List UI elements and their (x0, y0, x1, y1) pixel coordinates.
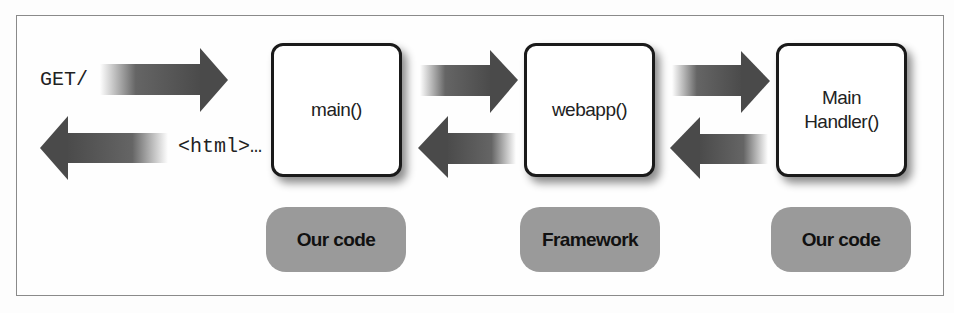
framework-tag: Framework (520, 207, 660, 272)
response-arrow-icon (40, 116, 168, 180)
webapp-to-handler-arrow-icon (672, 51, 770, 113)
webapp-to-main-arrow-icon (418, 116, 516, 178)
main-function-box: main() (271, 43, 402, 177)
our-code-tag-handler: Our code (771, 207, 911, 272)
main-to-webapp-arrow-icon (420, 50, 518, 113)
request-label: GET/ (40, 68, 88, 91)
box-label: main() (311, 98, 362, 122)
request-arrow-icon (100, 48, 228, 112)
box-label: webapp() (552, 98, 627, 122)
response-label: <html>… (178, 135, 262, 158)
webapp-function-box: webapp() (524, 43, 655, 177)
main-handler-box: Main Handler() (776, 43, 907, 177)
handler-to-webapp-arrow-icon (670, 117, 768, 179)
our-code-tag: Our code (266, 207, 406, 272)
box-label: Main Handler() (804, 86, 879, 134)
